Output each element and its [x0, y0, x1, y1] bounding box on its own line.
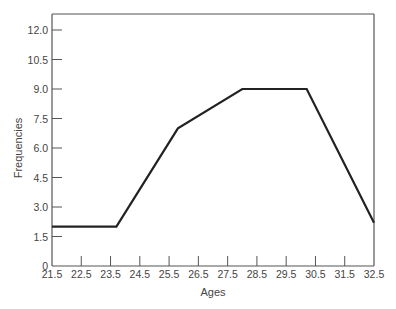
- x-tick-label: 31.5: [335, 268, 356, 280]
- x-tick-label: 23.5: [100, 268, 121, 280]
- frequency-polygon-chart: 01.53.04.56.07.59.010.512.021.522.523.52…: [0, 0, 396, 309]
- y-tick-label: 9.0: [33, 83, 48, 95]
- x-tick-label: 22.5: [71, 268, 92, 280]
- x-tick-label: 30.5: [305, 268, 326, 280]
- y-axis-title: Frequencies: [12, 117, 24, 178]
- y-tick-label: 12.0: [28, 24, 49, 36]
- frequency-polygon-line: [52, 89, 374, 227]
- x-tick-label: 29.5: [276, 268, 297, 280]
- x-tick-label: 24.5: [130, 268, 151, 280]
- y-tick-label: 10.5: [28, 54, 49, 66]
- x-tick-label: 28.5: [247, 268, 268, 280]
- x-tick-label: 32.5: [364, 268, 385, 280]
- y-tick-label: 7.5: [33, 113, 48, 125]
- x-axis-title: Ages: [200, 286, 226, 298]
- x-tick-label: 25.5: [159, 268, 180, 280]
- plot-area: 01.53.04.56.07.59.010.512.021.522.523.52…: [28, 14, 385, 280]
- y-tick-label: 4.5: [33, 172, 48, 184]
- x-tick-label: 26.5: [188, 268, 209, 280]
- y-tick-label: 1.5: [33, 231, 48, 243]
- y-tick-label: 6.0: [33, 142, 48, 154]
- x-tick-label: 21.5: [42, 268, 63, 280]
- x-tick-label: 27.5: [217, 268, 238, 280]
- y-tick-label: 3.0: [33, 201, 48, 213]
